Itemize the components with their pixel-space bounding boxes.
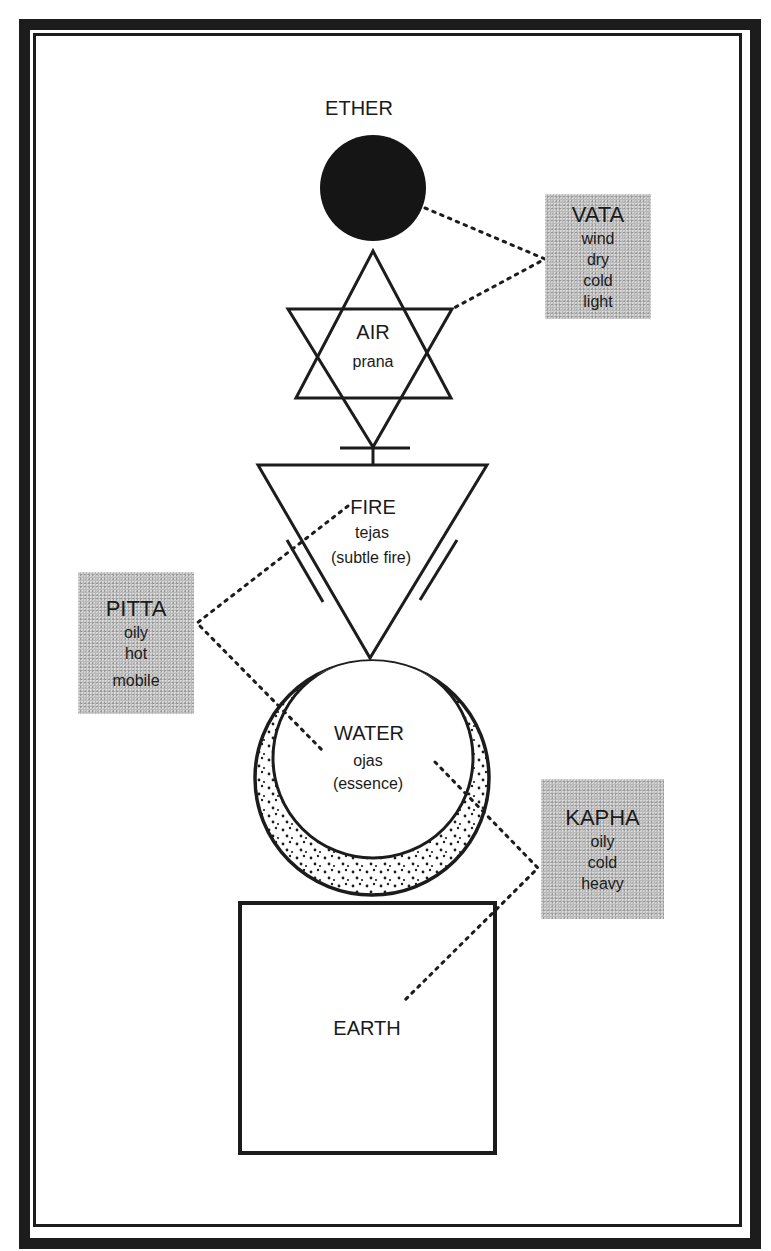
vata-quality: wind	[582, 228, 615, 249]
air-fire-connector	[340, 447, 410, 464]
water-label: WATER	[334, 723, 404, 743]
ether-circle	[320, 135, 426, 241]
pitta-quality: oily	[124, 622, 148, 643]
water-sublabel: ojas	[353, 753, 382, 769]
kapha-box: KAPHA oily cold heavy	[541, 779, 664, 919]
fire-sublabel-2: (subtle fire)	[331, 550, 411, 566]
air-label: AIR	[356, 322, 389, 342]
kapha-quality: oily	[590, 831, 614, 852]
earth-label: EARTH	[333, 1018, 400, 1038]
vata-connector	[425, 208, 545, 309]
fire-label: FIRE	[350, 497, 396, 517]
pitta-quality: mobile	[112, 670, 159, 691]
kapha-quality: cold	[588, 852, 617, 873]
water-sublabel-2: (essence)	[333, 776, 403, 792]
pitta-title: PITTA	[106, 596, 167, 622]
fire-sublabel: tejas	[355, 525, 389, 541]
ether-label: ETHER	[325, 98, 393, 118]
pitta-box: PITTA oily hot mobile	[78, 572, 194, 714]
diagram-canvas: ETHER AIR prana FIRE tejas (subtle fire)…	[0, 0, 771, 1251]
kapha-quality: heavy	[581, 873, 624, 894]
air-hexagram	[288, 251, 452, 447]
vata-title: VATA	[572, 202, 625, 228]
vata-box: VATA wind dry cold light	[545, 194, 651, 319]
air-sublabel: prana	[353, 354, 394, 370]
vata-quality: light	[583, 291, 612, 312]
kapha-title: KAPHA	[565, 805, 640, 831]
pitta-quality: hot	[125, 643, 147, 664]
vata-quality: cold	[583, 270, 612, 291]
vata-quality: dry	[587, 249, 609, 270]
